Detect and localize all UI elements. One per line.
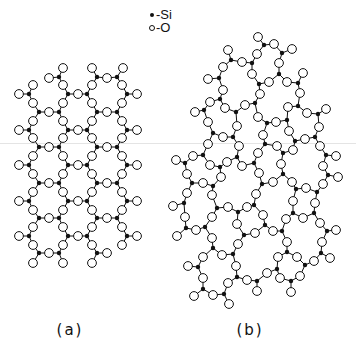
oxygen-atom	[253, 50, 262, 59]
oxygen-atom	[219, 86, 228, 95]
oxygen-atom	[243, 276, 252, 285]
silicon-atom	[85, 128, 89, 132]
silicon-atom	[252, 203, 256, 207]
oxygen-atom	[29, 206, 38, 215]
oxygen-atom	[29, 188, 38, 197]
silicon-atom	[66, 234, 70, 238]
oxygen-atom	[74, 90, 83, 99]
oxygen-atom	[219, 63, 228, 72]
oxygen-atom	[282, 215, 291, 224]
oxygen-atom	[133, 161, 142, 170]
oxygen-atom	[273, 142, 282, 151]
oxygen-atom	[45, 74, 54, 83]
silicon-atom	[201, 153, 205, 157]
oxygen-atom	[118, 134, 127, 143]
oxygen-atom	[88, 152, 97, 161]
oxygen-atom	[225, 300, 234, 309]
oxygen-atom	[59, 134, 68, 143]
oxygen-atom	[29, 170, 38, 179]
oxygen-atom	[270, 40, 279, 49]
silicon-atom	[57, 251, 61, 255]
silicon-atom	[215, 206, 219, 210]
oxygen-atom	[103, 74, 112, 83]
oxygen-atom	[59, 259, 68, 268]
oxygen-atom	[208, 213, 217, 222]
oxygen-atom	[88, 134, 97, 143]
silicon-atom	[95, 251, 99, 255]
silicon-atom	[57, 216, 61, 220]
oxygen-atom	[169, 202, 178, 211]
oxygen-atom	[310, 257, 319, 266]
oxygen-atom	[191, 108, 200, 117]
silicon-atom	[57, 110, 61, 114]
oxygen-atom	[256, 90, 265, 99]
oxygen-atom	[265, 78, 274, 87]
oxygen-atom	[45, 179, 54, 188]
oxygen-atom	[59, 99, 68, 108]
oxygen-atom	[284, 103, 293, 112]
oxygen-atom	[74, 126, 83, 135]
oxygen-atom	[238, 162, 247, 171]
oxygen-atom	[29, 259, 38, 268]
oxygen-atom	[45, 249, 54, 258]
silicon-atom	[312, 211, 316, 215]
oxygen-atom	[285, 127, 294, 136]
oxygen-atom	[263, 269, 272, 278]
oxygen-atom	[209, 291, 218, 300]
silicon-atom	[85, 163, 89, 167]
oxygen-atom	[15, 161, 24, 170]
oxygen-atom	[103, 214, 112, 223]
silicon-atom	[252, 161, 256, 165]
silicon-atom	[235, 155, 239, 159]
silicon-atom	[263, 223, 267, 227]
oxygen-atom	[204, 140, 213, 149]
silicon-atom	[115, 110, 119, 114]
silicon-atom	[203, 225, 207, 229]
oxygen-atom	[103, 179, 112, 188]
silicon-atom	[85, 234, 89, 238]
oxygen-atom	[133, 197, 142, 206]
oxygen-atom	[29, 223, 38, 232]
silicon-atom	[66, 128, 70, 132]
oxygen-atom	[183, 170, 192, 179]
oxygen-atom	[184, 262, 193, 271]
oxygen-atom	[293, 253, 302, 262]
silicon-atom	[95, 75, 99, 79]
oxygen-atom	[45, 143, 54, 152]
si-dot-icon	[150, 13, 154, 17]
oxygen-atom	[235, 142, 244, 151]
oxygen-atom	[118, 99, 127, 108]
oxygen-atom	[88, 241, 97, 250]
silicon-atom	[324, 153, 328, 157]
silicon-atom	[115, 181, 119, 185]
silicon-atom	[217, 76, 221, 80]
silicon-atom	[235, 275, 239, 279]
oxygen-atom	[172, 156, 181, 165]
oxygen-atom	[199, 253, 208, 262]
silicon-atom	[183, 161, 187, 165]
panel-b-amorphous-network	[169, 33, 343, 309]
silicon-atom	[211, 184, 215, 188]
oxygen-atom	[59, 170, 68, 179]
legend: -Si -O	[148, 8, 172, 34]
panel-a-crystalline-lattice	[15, 64, 142, 268]
oxygen-atom	[206, 98, 215, 107]
silicon-atom	[303, 263, 307, 267]
silicon-atom	[253, 101, 257, 105]
oxygen-atom	[221, 104, 230, 113]
oxygen-atom	[208, 234, 217, 243]
oxygen-atom	[133, 232, 142, 241]
oxygen-atom	[315, 123, 324, 132]
oxygen-atom	[276, 274, 285, 283]
silicon-atom	[326, 173, 330, 177]
silicon-atom	[57, 75, 61, 79]
silicon-atom	[231, 135, 235, 139]
oxygen-atom	[224, 279, 233, 288]
oxygen-atom	[302, 184, 311, 193]
oxygen-atom	[254, 33, 263, 42]
silicon-atom	[125, 92, 129, 96]
oxygen-atom	[59, 188, 68, 197]
silicon-atom	[85, 199, 89, 203]
silicon-atom	[190, 181, 194, 185]
silicon-atom	[57, 181, 61, 185]
